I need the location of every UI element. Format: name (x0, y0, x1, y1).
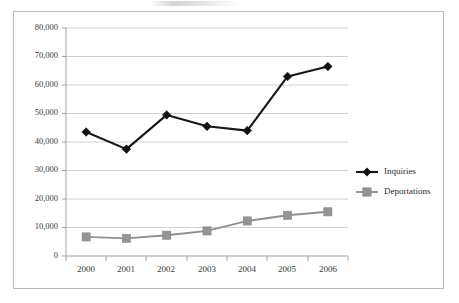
line-chart: 80,000 70,000 60,000 50,000 40,000 30,00… (0, 0, 459, 303)
data-point-inquiries-2006 (324, 62, 333, 71)
y-axis-label-70000: 70,000 (35, 50, 58, 60)
x-tick-marks (66, 256, 348, 261)
series-deportations (82, 208, 332, 243)
y-axis-label-40000: 40,000 (35, 136, 58, 146)
series-inquiries (82, 62, 332, 153)
series-line-inquiries (86, 66, 328, 149)
data-point-deportations-2000 (82, 233, 90, 241)
y-axis-label-0: 0 (54, 250, 58, 260)
legend-marker-diamond-icon (363, 168, 372, 177)
data-point-deportations-2001 (122, 234, 130, 242)
x-axis-label-2003: 2003 (198, 264, 217, 274)
data-point-deportations-2002 (163, 231, 171, 239)
x-axis-label-2006: 2006 (319, 264, 338, 274)
chart-legend: Inquiries Deportations (356, 166, 431, 196)
data-point-deportations-2005 (283, 211, 291, 219)
x-axis-label-2005: 2005 (278, 264, 297, 274)
chart-page: 80,000 70,000 60,000 50,000 40,000 30,00… (0, 0, 459, 303)
y-axis-label-20000: 20,000 (35, 193, 58, 203)
legend-label-inquiries: Inquiries (384, 166, 416, 176)
data-point-inquiries-2003 (203, 122, 212, 131)
y-axis-label-10000: 10,000 (35, 221, 58, 231)
x-axis-label-2002: 2002 (157, 264, 175, 274)
y-axis-label-50000: 50,000 (35, 107, 58, 117)
x-axis-label-2004: 2004 (238, 264, 257, 274)
x-axis-label-2000: 2000 (77, 264, 96, 274)
y-axis-label-80000: 80,000 (35, 22, 58, 32)
data-point-deportations-2006 (324, 208, 332, 216)
x-axis-label-2001: 2001 (117, 264, 135, 274)
legend-label-deportations: Deportations (384, 186, 431, 196)
data-point-deportations-2003 (203, 227, 211, 235)
data-point-deportations-2004 (243, 217, 251, 225)
data-point-inquiries-2000 (82, 128, 91, 137)
y-tick-marks (62, 28, 66, 256)
y-axis-label-60000: 60,000 (35, 79, 58, 89)
y-axis-labels: 80,000 70,000 60,000 50,000 40,000 30,00… (35, 22, 58, 260)
x-axis-labels: 2000 2001 2002 2003 2004 2005 2006 (77, 264, 338, 274)
legend-marker-square-icon (363, 188, 371, 196)
data-series-layer (82, 62, 332, 242)
y-axis-label-30000: 30,000 (35, 164, 58, 174)
